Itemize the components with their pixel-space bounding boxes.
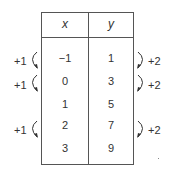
left-label-1: +1 <box>14 79 27 91</box>
right-label-0: +2 <box>148 55 161 67</box>
left-label-2: +1 <box>14 124 27 136</box>
right-label-2: +2 <box>148 124 161 136</box>
left-label-0: +1 <box>14 55 27 67</box>
stray-dot <box>158 158 159 159</box>
right-label-1: +2 <box>148 79 161 91</box>
